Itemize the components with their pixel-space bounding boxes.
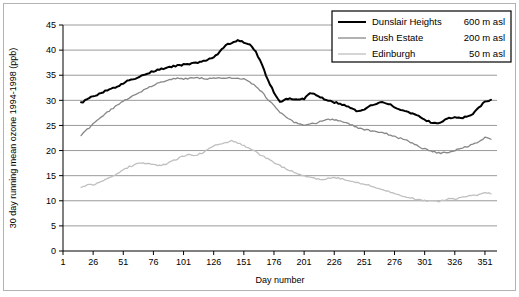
series-line-edinburgh <box>81 140 491 201</box>
legend-label-0: Dunslair Heights <box>372 16 442 27</box>
x-tick-label-26: 26 <box>88 257 98 267</box>
x-axis-title: Day number <box>255 275 304 285</box>
y-tick-label-10: 10 <box>46 196 56 206</box>
x-tick-label-51: 51 <box>118 257 128 267</box>
legend: Dunslair Heights600 m aslBush Estate200 … <box>332 11 511 62</box>
y-tick-label-35: 35 <box>46 70 56 80</box>
legend-altitude-1: 200 m asl <box>464 32 505 43</box>
legend-altitude-0: 600 m asl <box>464 16 505 27</box>
y-tick-label-45: 45 <box>46 20 56 30</box>
y-tick-group: 051015202530354045 <box>46 20 63 256</box>
y-tick-label-25: 25 <box>46 121 56 131</box>
x-tick-label-276: 276 <box>387 257 402 267</box>
legend-altitude-2: 50 m asl <box>469 48 505 59</box>
y-tick-label-30: 30 <box>46 96 56 106</box>
series-group <box>81 40 491 202</box>
x-tick-group: 1265176101126151176201226251276301326351 <box>60 251 492 267</box>
series-line-bush-estate <box>81 77 491 153</box>
chart-figure: 1265176101126151176201226251276301326351… <box>0 0 519 297</box>
legend-label-2: Edinburgh <box>372 48 415 59</box>
x-tick-label-251: 251 <box>357 257 372 267</box>
x-tick-label-226: 226 <box>327 257 342 267</box>
y-tick-label-0: 0 <box>51 246 56 256</box>
y-tick-label-40: 40 <box>46 45 56 55</box>
y-tick-label-20: 20 <box>46 146 56 156</box>
x-tick-label-301: 301 <box>417 257 432 267</box>
y-tick-label-15: 15 <box>46 171 56 181</box>
x-tick-label-126: 126 <box>206 257 221 267</box>
legend-label-1: Bush Estate <box>372 32 423 43</box>
ozone-line-chart: 1265176101126151176201226251276301326351… <box>0 0 519 297</box>
y-axis-title: 30 day running mean ozone 1994-1998 (ppb… <box>8 48 18 229</box>
x-tick-label-151: 151 <box>236 257 251 267</box>
x-tick-label-101: 101 <box>176 257 191 267</box>
x-tick-label-326: 326 <box>447 257 462 267</box>
y-tick-label-5: 5 <box>51 221 56 231</box>
x-tick-label-76: 76 <box>148 257 158 267</box>
x-tick-label-1: 1 <box>60 257 65 267</box>
x-tick-label-176: 176 <box>266 257 281 267</box>
x-tick-label-201: 201 <box>297 257 312 267</box>
x-tick-label-351: 351 <box>477 257 492 267</box>
